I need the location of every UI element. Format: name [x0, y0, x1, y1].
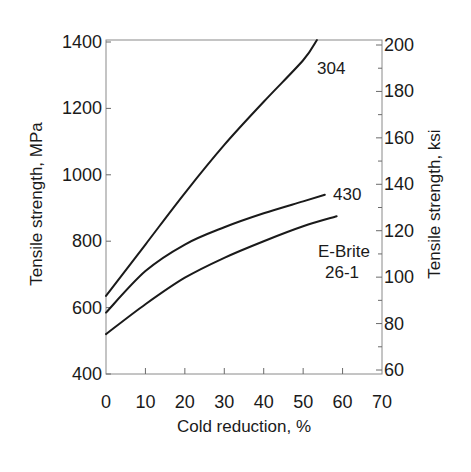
- x-tick-label: 70: [372, 392, 392, 412]
- y2-tick-label: 140: [384, 174, 414, 194]
- series-label: 304: [317, 59, 345, 78]
- y2-tick-label: 120: [384, 221, 414, 241]
- y2-tick-label: 100: [384, 267, 414, 287]
- y2-tick-label: 80: [384, 314, 404, 334]
- curves: [106, 40, 337, 334]
- y-axis-left: 400600800100012001400: [62, 32, 111, 384]
- x-tick-label: 50: [293, 392, 313, 412]
- x-axis-title: Cold reduction, %: [177, 417, 311, 436]
- x-tick-label: 30: [214, 392, 234, 412]
- y-axis-title-right: Tensile strength, ksi: [425, 129, 444, 278]
- plot-border: [106, 40, 382, 374]
- x-tick-label: 0: [101, 392, 111, 412]
- y2-tick-label: 200: [384, 35, 414, 55]
- x-tick-label: 40: [254, 392, 274, 412]
- series-label-line2: 26-1: [325, 263, 359, 282]
- y2-tick-label: 160: [384, 128, 414, 148]
- series-label: 430: [333, 185, 361, 204]
- tensile-strength-chart: 010203040506070 400600800100012001400 60…: [0, 0, 471, 472]
- y-axis-title-left: Tensile strength, MPa: [27, 122, 46, 286]
- x-tick-label: 60: [333, 392, 353, 412]
- y-tick-label: 1000: [62, 165, 102, 185]
- y-tick-label: 600: [72, 298, 102, 318]
- series-label: E-Brite: [318, 242, 370, 261]
- x-tick-label: 10: [135, 392, 155, 412]
- series-labels: 304430E-Brite26-1: [317, 59, 370, 282]
- y2-tick-label: 60: [384, 360, 404, 380]
- curve-304: [106, 40, 317, 296]
- y-tick-label: 400: [72, 364, 102, 384]
- y-tick-label: 800: [72, 231, 102, 251]
- x-tick-label: 20: [175, 392, 195, 412]
- x-axis: 010203040506070: [101, 368, 392, 412]
- y-tick-label: 1400: [62, 32, 102, 52]
- y-tick-label: 1200: [62, 98, 102, 118]
- y2-tick-label: 180: [384, 81, 414, 101]
- plot-frame: [106, 40, 382, 374]
